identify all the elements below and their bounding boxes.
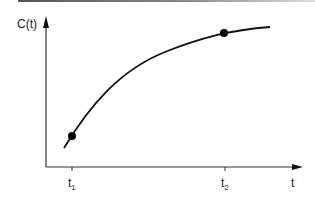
tick-label-t1: t1 — [68, 177, 76, 192]
curve-c-of-t — [64, 27, 270, 148]
tick-label-t2-sub: 2 — [224, 183, 228, 192]
tick-label-t1-sub: 1 — [71, 183, 75, 192]
chart-canvas — [0, 0, 315, 198]
point-t2 — [220, 29, 228, 37]
x-axis-label: t — [291, 177, 294, 189]
point-t1 — [68, 132, 76, 140]
tick-label-t2: t2 — [221, 177, 229, 192]
x-axis-arrow-icon — [292, 164, 303, 170]
y-axis-arrow-icon — [43, 16, 49, 28]
y-axis-label: C(t) — [17, 18, 37, 30]
